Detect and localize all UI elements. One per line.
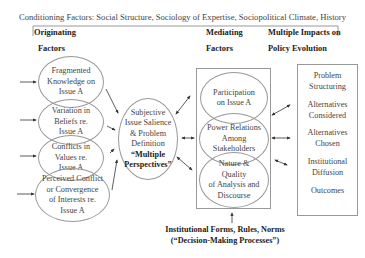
ellipse-text-line: Subjective	[124, 108, 171, 119]
ellipse-text-line: Issue A	[47, 87, 95, 98]
ellipse-text-line: Conflicts in	[52, 142, 90, 153]
ellipse-text-line: Discourse	[209, 191, 260, 202]
impact-problem-structuring: Problem Structuring	[300, 71, 355, 92]
impacts-header-line2: Policy Evolution	[268, 44, 327, 53]
ellipse-text-line: Nature &	[209, 159, 260, 170]
impacts-header-line1: Multiple Impacts on	[268, 28, 341, 37]
institutional-line2: (“Decision-Making Processes”)	[140, 235, 310, 246]
impact-text-line: Alternatives	[300, 128, 355, 139]
ellipse-text-line: Issue A	[42, 206, 103, 217]
originating-factor-perceived-conflict: Perceived Conflict or Convergence of Int…	[35, 168, 110, 222]
ellipse-text-line: Knowledge on	[47, 77, 95, 88]
originating-header-line1: Originating	[34, 28, 76, 37]
impact-text-line: Problem	[300, 71, 355, 82]
ellipse-text-line: Power Relations	[207, 123, 261, 134]
impact-text-line: Institutional	[300, 157, 355, 168]
ellipse-text-line: or Convergence	[42, 185, 103, 196]
ellipse-text-line: & Problem	[124, 129, 171, 140]
impact-text-line: Considered	[300, 111, 355, 122]
ellipse-text-line: Variation in	[52, 106, 90, 117]
impact-institutional-diffusion: Institutional Diffusion	[300, 157, 355, 178]
ellipse-text-line: Issue Salience	[124, 118, 171, 129]
impact-text-line: Alternatives	[300, 100, 355, 111]
institutional-forms-label: Institutional Forms, Rules, Norms (“Deci…	[140, 224, 310, 246]
institutional-line1: Institutional Forms, Rules, Norms	[140, 224, 310, 235]
impact-text-line: Structuring	[300, 82, 355, 93]
mediating-header-line1: Mediating	[206, 28, 243, 37]
ellipse-text-line: Values re.	[52, 153, 90, 164]
ellipse-text-line: Fragmented	[47, 66, 95, 77]
ellipse-text-line: Participation	[213, 88, 255, 99]
impact-text-line: Chosen	[300, 139, 355, 150]
ellipse-emphasis-line: “Multiple	[124, 150, 171, 161]
originating-header-line2: Factors	[38, 44, 65, 53]
impact-outcomes: Outcomes	[300, 186, 355, 197]
ellipse-text-line: of Analysis and	[209, 180, 260, 191]
ellipse-text-line: Among	[207, 134, 261, 145]
ellipse-emphasis-line: Perspectives”	[124, 160, 171, 171]
impact-text-line: Diffusion	[300, 168, 355, 179]
central-multiple-perspectives: Subjective Issue Salience & Problem Defi…	[118, 98, 178, 180]
mediating-factor-analysis-discourse: Nature & Quality of Analysis and Discour…	[199, 152, 269, 208]
ellipse-text-line: Beliefs re.	[52, 117, 90, 128]
ellipse-text-line: on Issue A	[213, 98, 255, 109]
impact-alternatives-chosen: Alternatives Chosen	[300, 128, 355, 149]
mediating-header-line2: Factors	[206, 44, 233, 53]
impact-text-line: Outcomes	[300, 186, 355, 197]
ellipse-text-line: Quality	[209, 170, 260, 181]
ellipse-text-line: of Interests re.	[42, 195, 103, 206]
ellipse-text-line: Perceived Conflict	[42, 174, 103, 185]
ellipse-text-line: Definition	[124, 139, 171, 150]
impact-alternatives-considered: Alternatives Considered	[300, 100, 355, 121]
